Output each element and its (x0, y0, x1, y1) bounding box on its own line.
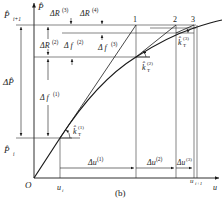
k2-label: k̂ (142, 61, 146, 72)
u-i1-label: u (190, 177, 194, 185)
svg-text:T: T (147, 68, 150, 73)
svg-text:i: i (13, 151, 15, 157)
svg-text:i+1: i+1 (13, 16, 21, 22)
df1-label: Δ f (39, 93, 51, 102)
angle-marks (60, 29, 188, 138)
svg-text:(3): (3) (183, 36, 189, 41)
du2-label: Δu (146, 158, 156, 167)
x-axis-label: u (213, 183, 217, 192)
delta-p-label: ΔP̂ (2, 77, 14, 87)
svg-text:(3): (3) (111, 41, 118, 48)
du1-label: Δu (87, 158, 97, 167)
df3-label: Δ f (97, 43, 109, 52)
svg-text:(3): (3) (186, 157, 192, 162)
y-axis-label: P̂ (37, 2, 44, 12)
svg-text:(3): (3) (62, 7, 69, 14)
svg-text:(2): (2) (77, 39, 84, 46)
df2-label: Δ f (63, 41, 75, 50)
p-i1-label: P̂ (3, 10, 10, 20)
svg-text:(2): (2) (52, 39, 59, 46)
vertical-lines (60, 25, 197, 178)
svg-text:(2): (2) (156, 156, 163, 163)
point-3-label: 3 (191, 15, 195, 24)
origin-label: O (25, 180, 32, 190)
u-i-label: u (57, 183, 61, 192)
k1-label: k̂ (73, 125, 77, 136)
svg-text:(1): (1) (53, 91, 60, 98)
point-2-label: 2 (173, 15, 177, 24)
k3-label: k̂ (178, 36, 182, 47)
point-1-label: 1 (133, 15, 137, 24)
p-i-label: P̂ (3, 145, 10, 155)
svg-text:i+1: i+1 (195, 181, 202, 186)
tangent-2 (136, 25, 176, 57)
dR2-label: ΔR (39, 41, 50, 50)
du3-label: Δu (176, 158, 185, 167)
svg-text:T: T (78, 132, 81, 137)
figure-caption: (b) (115, 188, 126, 198)
dR3-label: ΔR (49, 9, 60, 18)
svg-text:(2): (2) (147, 61, 153, 66)
svg-text:(1): (1) (78, 125, 84, 130)
svg-text:(4): (4) (92, 7, 99, 14)
svg-text:i: i (62, 188, 64, 193)
svg-text:T: T (183, 43, 186, 48)
svg-text:(1): (1) (97, 156, 104, 163)
newton-raphson-diagram: P̂ u O P̂ i+1 P̂ i ΔP̂ u i u i+1 ΔR (2) … (0, 0, 224, 199)
dR4-label: ΔR (79, 9, 90, 18)
